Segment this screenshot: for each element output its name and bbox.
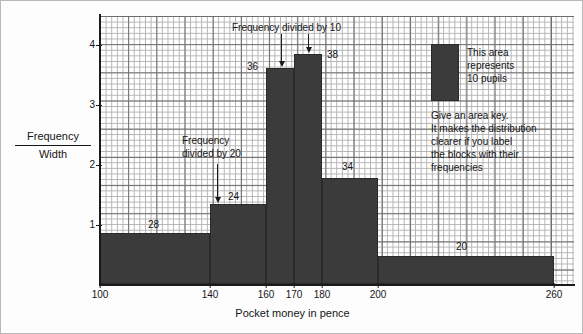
instruction-note-line-3: clearer if you label <box>431 135 537 148</box>
bar-label-38: 38 <box>327 49 338 60</box>
y-tick-3: 3 <box>79 99 95 110</box>
fraction-rule <box>15 145 91 146</box>
y-axis-title: Frequency Width <box>13 129 93 162</box>
annotation-frequency-divided-by-20-line1: Frequency <box>182 135 229 147</box>
x-axis-line <box>99 284 575 286</box>
instruction-note-line-2: It makes the distribution <box>431 122 537 135</box>
y-tick-4: 4 <box>79 39 95 50</box>
bar-36 <box>266 68 294 284</box>
x-axis-title: Pocket money in pence <box>1 307 583 319</box>
area-key-line-2: represents <box>467 59 514 72</box>
x-tick-200: 200 <box>370 289 387 300</box>
annotation-frequency-divided-by-20-line2: divided by 20 <box>182 148 241 160</box>
bar-38 <box>294 54 322 284</box>
instruction-note-line-1: Give an area key. <box>431 109 537 122</box>
area-key-text: This area represents 10 pupils <box>467 46 514 85</box>
bar-label-28: 28 <box>148 219 159 230</box>
bar-label-24: 24 <box>228 191 239 202</box>
area-key-swatch <box>431 44 459 101</box>
area-key-line-1: This area <box>467 46 514 59</box>
y-axis-title-numerator: Frequency <box>13 129 93 144</box>
y-axis-line <box>99 14 101 286</box>
y-axis-title-denominator: Width <box>13 147 93 162</box>
bar-20 <box>378 256 554 284</box>
bar-label-36: 36 <box>247 61 258 72</box>
annotation-arrow-38 <box>308 34 309 48</box>
histogram-figure: 4 3 2 1 100 140 160 170 180 200 260 28 2… <box>0 0 583 334</box>
x-tick-140: 140 <box>202 289 219 300</box>
y-tick-1: 1 <box>79 219 95 230</box>
x-tick-160: 160 <box>258 289 275 300</box>
bar-24 <box>210 204 266 284</box>
x-tick-180: 180 <box>314 289 331 300</box>
annotation-arrow-24 <box>217 164 218 198</box>
area-key-line-3: 10 pupils <box>467 72 514 85</box>
annotation-frequency-divided-by-10: Frequency divided by 10 <box>232 22 341 34</box>
bar-34 <box>322 178 378 284</box>
instruction-note: Give an area key. It makes the distribut… <box>431 109 537 174</box>
bar-label-20: 20 <box>456 241 467 252</box>
instruction-note-line-5: frequencies <box>431 161 537 174</box>
x-tick-260: 260 <box>546 289 563 300</box>
bar-28 <box>100 233 210 284</box>
annotation-arrow-36 <box>281 34 282 62</box>
bar-label-34: 34 <box>342 161 353 172</box>
x-tick-100: 100 <box>92 289 109 300</box>
x-tick-170: 170 <box>286 289 303 300</box>
instruction-note-line-4: the blocks with their <box>431 148 537 161</box>
